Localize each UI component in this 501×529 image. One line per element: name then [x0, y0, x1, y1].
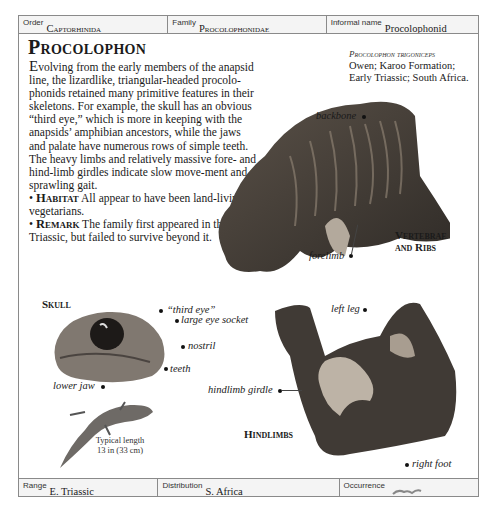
leader-line: [282, 390, 302, 391]
range-value: E. Triassic: [50, 486, 94, 496]
label-dot: [349, 254, 353, 258]
label-lower-jaw: lower jaw: [53, 380, 95, 391]
hindlimbs-caption: Hindlimbs: [244, 428, 293, 440]
order-label: Order: [23, 18, 43, 27]
label-dot: [159, 309, 163, 313]
label-dot: [175, 319, 179, 323]
family-value: Procolophonidae: [199, 23, 269, 33]
label-dot: [363, 308, 367, 312]
label-forelimb: forelimb: [309, 250, 344, 261]
distribution-cell: DistributionS. Africa: [158, 479, 339, 496]
range-cell: RangeE. Triassic: [19, 479, 158, 496]
fossil-occurrence-icon: [392, 488, 422, 496]
specimen-details-2: Early Triassic; South Africa.: [349, 72, 479, 84]
informal-name-label: Informal name: [331, 18, 382, 27]
label-backbone: backbone: [316, 110, 356, 121]
label-left-leg: left leg: [331, 303, 360, 314]
skull-caption: Skull: [42, 298, 71, 310]
occurrence-cell: Occurrence: [340, 479, 478, 496]
family-cell: FamilyProcolophonidae: [168, 16, 326, 33]
page-title: Procolophon: [28, 36, 146, 59]
range-label: Range: [23, 481, 47, 490]
drop-cap: E: [29, 58, 38, 74]
label-eye-socket: large eye socket: [181, 314, 248, 325]
label-right-foot: right foot: [412, 458, 451, 469]
skull-fossil-image: [52, 310, 172, 385]
typical-length: Typical length 13 in (33 cm): [80, 435, 160, 455]
classification-header: OrderCaptorhinida FamilyProcolophonidae …: [18, 15, 479, 34]
informal-name-cell: Informal nameProcolophonid: [327, 16, 478, 33]
label-dot: [362, 115, 366, 119]
label-dot: [164, 367, 168, 371]
label-dot: [101, 385, 105, 389]
order-value: Captorhinida: [46, 23, 101, 33]
family-label: Family: [172, 18, 196, 27]
remark-heading: Remark: [36, 217, 80, 231]
specimen-info: Procolophon trigoniceps Owen; Karoo Form…: [349, 48, 479, 84]
specimen-name: Procolophon trigoniceps: [349, 48, 479, 60]
label-hindlimb-girdle: hindlimb girdle: [208, 384, 273, 395]
label-dot: [181, 345, 185, 349]
order-cell: OrderCaptorhinida: [19, 16, 168, 33]
distribution-value: S. Africa: [205, 486, 242, 496]
range-footer: RangeE. Triassic DistributionS. Africa O…: [18, 478, 479, 497]
habitat-heading: Habitat: [36, 191, 79, 205]
label-teeth: teeth: [170, 363, 190, 374]
label-nostril: nostril: [188, 340, 215, 351]
distribution-label: Distribution: [162, 481, 202, 490]
occurrence-label: Occurrence: [344, 481, 385, 490]
vertebrae-caption: Vertebrae and Ribs: [395, 229, 447, 253]
specimen-details-1: Owen; Karoo Formation;: [349, 60, 479, 72]
informal-name-value: Procolophonid: [385, 23, 447, 33]
hindlimbs-fossil-image: [270, 296, 460, 461]
label-dot: [405, 463, 409, 467]
